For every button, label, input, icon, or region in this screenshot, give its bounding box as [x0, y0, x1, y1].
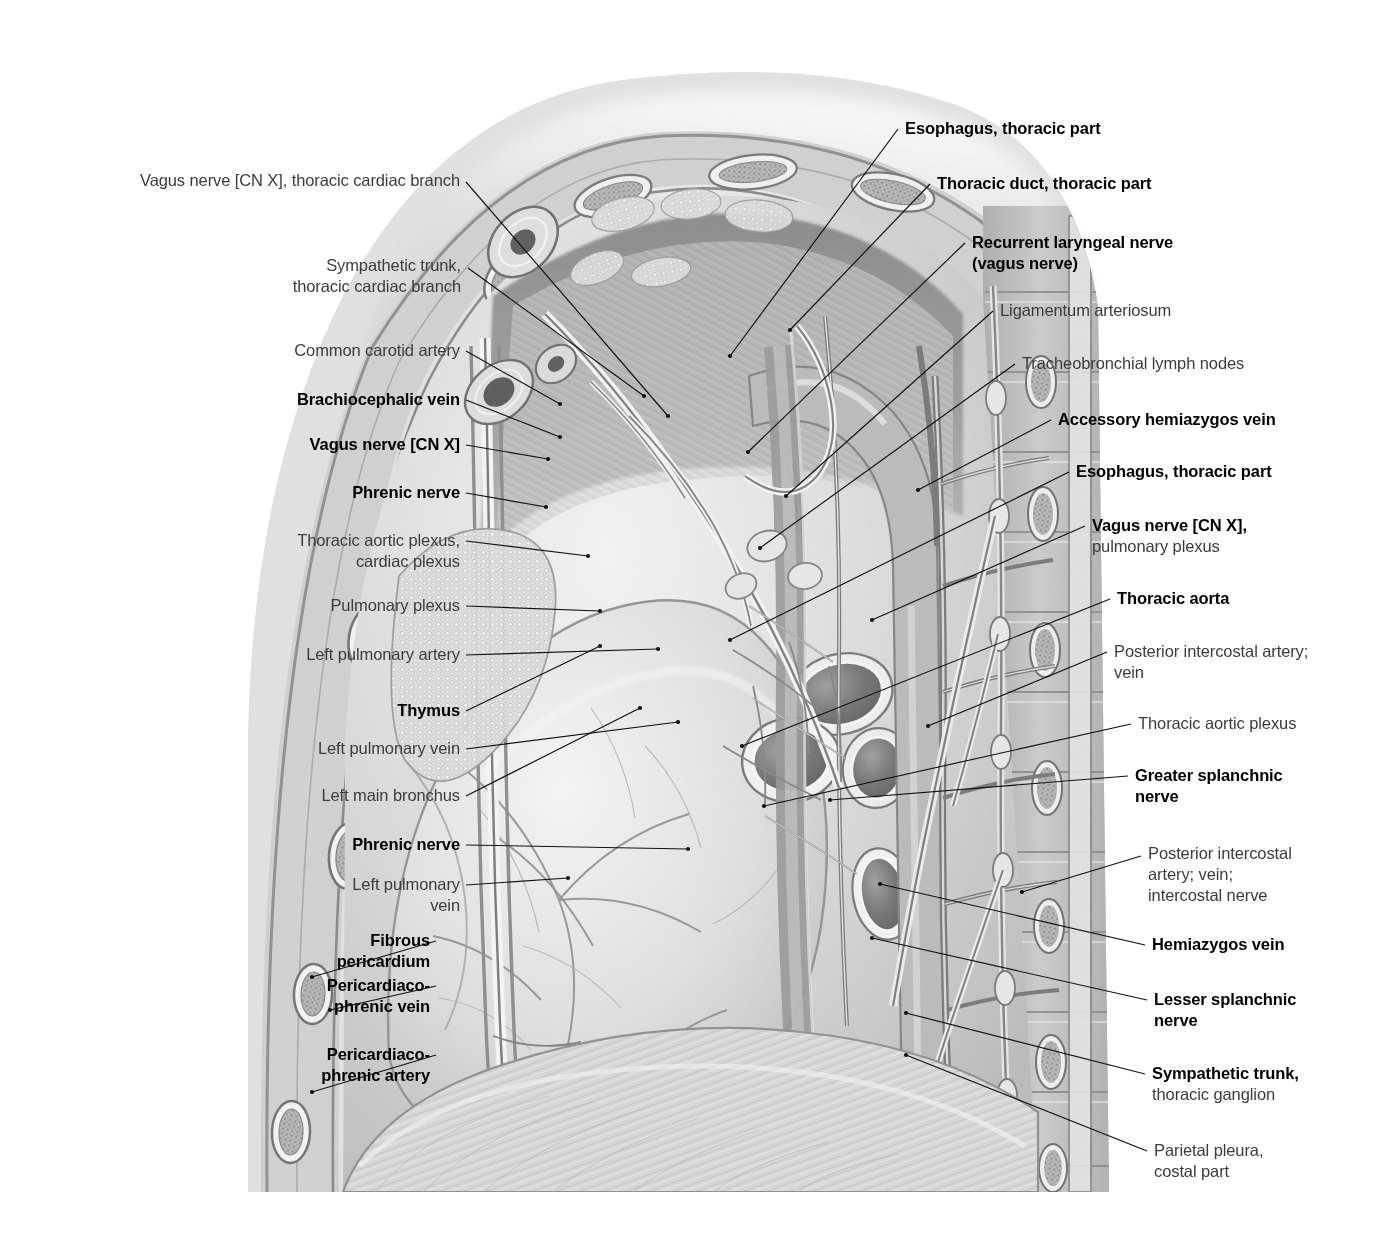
label-left-pulmonary-artery: Left pulmonary artery — [70, 644, 460, 665]
label-vagus-nerve-pulmonary-plexus: Vagus nerve [CN X],pulmonary plexus — [1092, 515, 1378, 557]
label-greater-splanchnic-nerve: Greater splanchnic nerve — [1135, 765, 1378, 807]
label-phrenic-nerve-lower: Phrenic nerve — [80, 834, 460, 855]
label-vagus-cardiac-branch: Vagus nerve [CN X], thoracic cardiac bra… — [120, 170, 460, 191]
label-sub-vagus-nerve-pulmonary-plexus: pulmonary plexus — [1092, 537, 1220, 555]
label-thoracic-aorta: Thoracic aorta — [1117, 588, 1378, 609]
label-esophagus-thoracic-part-lower: Esophagus, thoracic part — [1076, 461, 1376, 482]
anatomical-illustration — [193, 46, 1129, 1192]
label-sub-sympathetic-trunk-thoracic-ganglion: thoracic ganglion — [1152, 1085, 1275, 1103]
label-posterior-intercostal-artery-vein: Posterior intercostal artery; vein — [1114, 641, 1378, 683]
label-esophagus-thoracic-part-upper: Esophagus, thoracic part — [905, 118, 1255, 139]
label-pulmonary-plexus-left: Pulmonary plexus — [113, 595, 460, 616]
label-fibrous-pericardium: Fibrous pericardium — [90, 930, 430, 972]
label-head-vagus-nerve-pulmonary-plexus: Vagus nerve [CN X], — [1092, 516, 1247, 534]
label-pericardiacophrenic-vein: Pericardiaco- phrenic vein — [68, 975, 430, 1017]
label-recurrent-laryngeal-nerve: Recurrent laryngeal nerve (vagus nerve) — [972, 232, 1302, 274]
label-sympathetic-trunk-thoracic-ganglion: Sympathetic trunk,thoracic ganglion — [1152, 1063, 1378, 1105]
label-thymus: Thymus — [128, 700, 460, 721]
label-accessory-hemiazygos-vein: Accessory hemiazygos vein — [1058, 409, 1358, 430]
label-brachiocephalic-vein: Brachiocephalic vein — [176, 389, 460, 410]
anatomy-plate: Vagus nerve [CN X], thoracic cardiac bra… — [0, 0, 1378, 1243]
label-tracheobronchial-lymph-nodes: Tracheobronchial lymph nodes — [1022, 353, 1322, 374]
label-hemiazygos-vein: Hemiazygos vein — [1152, 934, 1378, 955]
label-common-carotid-artery: Common carotid artery — [202, 340, 460, 361]
label-left-pulmonary-vein-upper: Left pulmonary vein — [68, 738, 460, 759]
label-thoracic-aortic-plexus-right: Thoracic aortic plexus — [1138, 713, 1378, 734]
label-left-pulmonary-vein-lower: Left pulmonary vein — [78, 874, 460, 916]
label-lesser-splanchnic-nerve: Lesser splanchnic nerve — [1154, 989, 1378, 1031]
label-posterior-intercostal-artery-vein-nerve: Posterior intercostal artery; vein; inte… — [1148, 843, 1378, 906]
label-head-sympathetic-trunk-thoracic-ganglion: Sympathetic trunk, — [1152, 1064, 1299, 1082]
label-left-main-bronchus: Left main bronchus — [58, 785, 460, 806]
label-thoracic-aortic-plexus-cardiac-plexus: Thoracic aortic plexus, cardiac plexus — [105, 530, 460, 572]
label-sympathetic-trunk-cardiac-branch: Sympathetic trunk, thoracic cardiac bran… — [243, 255, 461, 297]
label-pericardiacophrenic-artery: Pericardiaco- phrenic artery — [64, 1044, 430, 1086]
label-phrenic-nerve-upper: Phrenic nerve — [180, 482, 460, 503]
label-parietal-pleura-costal-part: Parietal pleura, costal part — [1154, 1140, 1378, 1182]
label-vagus-nerve-cnx-left: Vagus nerve [CN X] — [166, 434, 460, 455]
label-ligamentum-arteriosum: Ligamentum arteriosum — [1000, 300, 1310, 321]
label-thoracic-duct-thoracic-part: Thoracic duct, thoracic part — [937, 173, 1287, 194]
